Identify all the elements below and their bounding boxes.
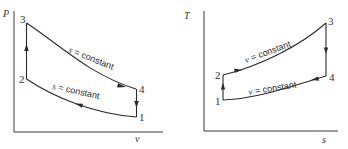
ts-lower-annotation: v = constant <box>248 79 298 97</box>
otto-cycle-diagrams: P v 3 2 4 1 s = constant s = constant T … <box>0 0 348 149</box>
ts-upper-annotation: v = constant <box>243 39 292 65</box>
arrow-down-icon <box>324 48 328 55</box>
ts-point-3-label: 3 <box>328 15 334 27</box>
pv-point-3-label: 3 <box>20 13 26 25</box>
pv-lower-annotation: s = constant <box>52 81 101 101</box>
ts-x-axis-label: s <box>322 134 326 145</box>
arrow-down-icon <box>134 101 139 108</box>
arrow-left-icon <box>75 104 83 108</box>
arrow-up-icon <box>24 44 29 51</box>
ts-point-4-label: 4 <box>329 71 335 83</box>
pv-upper-annotation: s = constant <box>67 45 116 72</box>
pv-y-axis-label: P <box>2 8 9 19</box>
pv-x-axis-label: v <box>135 133 140 144</box>
ts-diagram: T s 3 2 4 1 v = constant v = constant <box>184 10 338 145</box>
ts-point-2-label: 2 <box>215 69 221 81</box>
pv-point-4-label: 4 <box>139 83 145 95</box>
pv-point-2-label: 2 <box>19 73 25 85</box>
ts-point-1-label: 1 <box>215 95 221 107</box>
ts-y-axis-label: T <box>184 10 191 21</box>
arrow-right-icon <box>234 69 242 73</box>
pv-point-1-label: 1 <box>139 111 145 123</box>
pv-diagram: P v 3 2 4 1 s = constant s = constant <box>2 8 163 144</box>
arrow-up-icon <box>221 83 225 90</box>
